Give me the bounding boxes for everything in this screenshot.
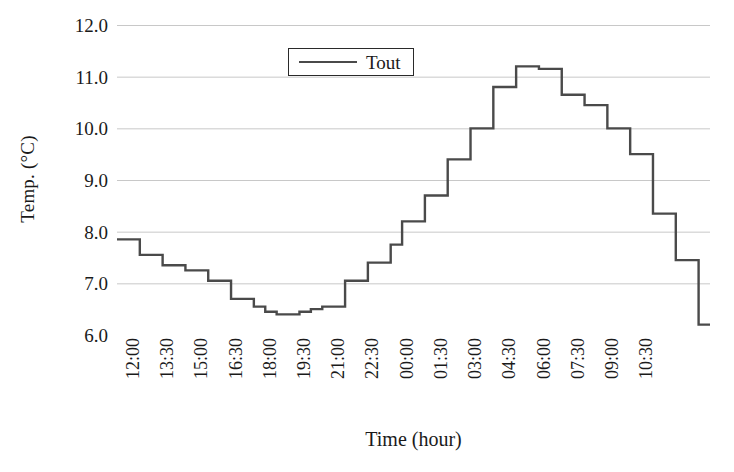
- y-axis-tick-labels: 12.011.010.09.08.07.06.0: [40, 25, 108, 335]
- x-tick-label: 03:00: [466, 338, 484, 379]
- y-tick-label: 11.0: [40, 67, 108, 86]
- x-tick-label: 06:00: [535, 338, 553, 379]
- y-tick-label: 6.0: [40, 326, 108, 345]
- x-tick-label: 04:30: [500, 338, 518, 379]
- y-tick-label: 7.0: [40, 274, 108, 293]
- x-tick-label: 09:00: [603, 338, 621, 379]
- legend-line-swatch-tout: [299, 61, 357, 63]
- x-tick-label: 16:30: [227, 338, 245, 379]
- y-tick-label: 9.0: [40, 171, 108, 190]
- x-axis-tick-labels: 12:0013:3015:0016:3018:0019:3021:0022:30…: [117, 338, 710, 418]
- x-tick-label: 18:00: [261, 338, 279, 379]
- y-tick-label: 12.0: [40, 16, 108, 35]
- series-group: [117, 66, 710, 324]
- x-tick-label: 13:30: [158, 338, 176, 379]
- x-tick-label: 19:30: [295, 338, 313, 379]
- x-tick-label: 07:30: [569, 338, 587, 379]
- x-tick-label: 12:00: [124, 338, 142, 379]
- y-tick-label: 10.0: [40, 119, 108, 138]
- x-tick-label: 10:30: [637, 338, 655, 379]
- x-tick-label: 21:00: [329, 338, 347, 379]
- x-axis-title: Time (hour): [117, 428, 710, 451]
- y-axis-title: Temp. (°C): [17, 79, 39, 279]
- x-tick-label: 00:00: [398, 338, 416, 379]
- y-tick-label: 8.0: [40, 222, 108, 241]
- x-tick-label: 15:00: [192, 338, 210, 379]
- series-line-tout: [117, 66, 710, 324]
- temperature-chart: Temp. (°C) 12.011.010.09.08.07.06.0 Tout…: [0, 0, 734, 472]
- x-tick-label: 01:30: [432, 338, 450, 379]
- x-tick-label: 22:30: [363, 338, 381, 379]
- legend: Tout: [288, 48, 414, 76]
- legend-label-tout: Tout: [366, 53, 401, 72]
